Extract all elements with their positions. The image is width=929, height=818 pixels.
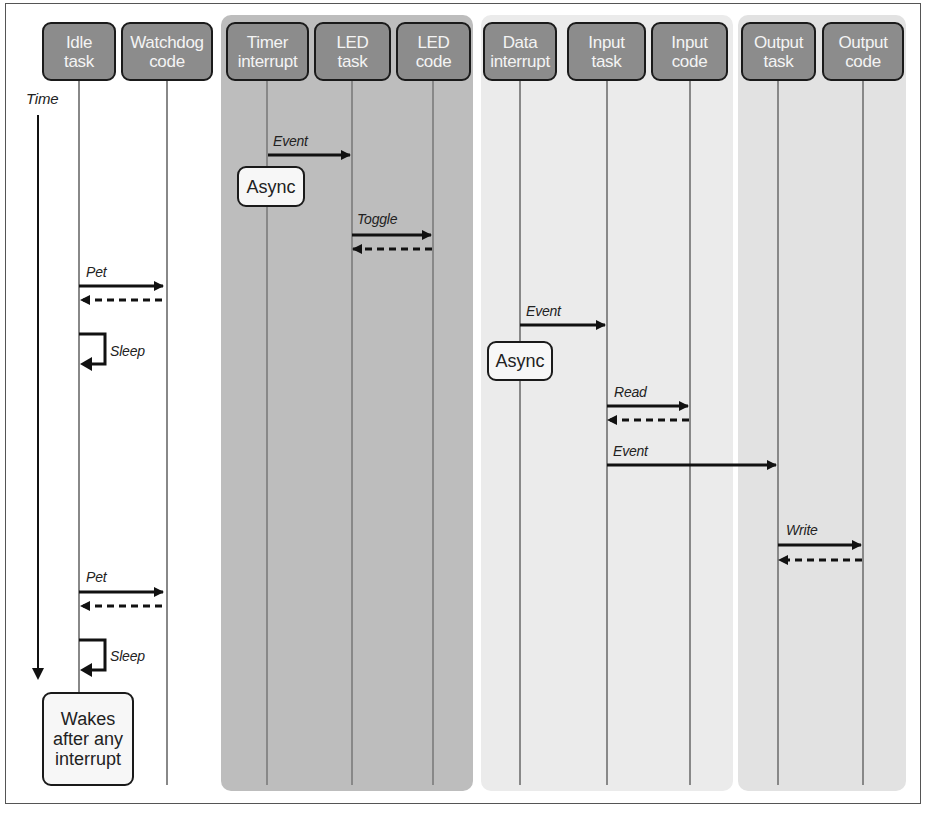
read-label: Read [614,384,647,400]
write-label: Write [786,522,818,538]
time-label: Time [26,90,58,107]
pet-label-1: Pet [86,264,106,280]
event-label-3: Event [613,443,648,459]
pet-label-2: Pet [86,569,106,585]
message-arrows [0,0,929,818]
event-label-2: Event [526,303,561,319]
async-note-timer: Async [237,166,305,207]
toggle-label: Toggle [357,211,397,227]
sleep-label-1: Sleep [110,343,145,359]
async-note-data: Async [487,341,553,381]
event-label-1: Event [273,133,308,149]
wakes-after-interrupt-note: Wakes after any interrupt [42,692,134,786]
sleep-label-2: Sleep [110,648,145,664]
